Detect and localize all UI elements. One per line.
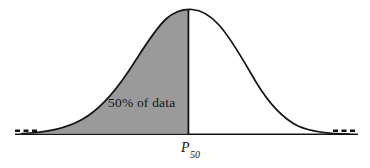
shaded-area-left-of-median (26, 9, 188, 133)
percentile-axis-label: P50 (181, 141, 200, 158)
percentile-symbol: P (181, 140, 190, 155)
normal-distribution-figure: 50% of data P50 (0, 0, 370, 168)
percentile-subscript: 50 (190, 149, 200, 160)
shaded-region-label: 50% of data (108, 96, 175, 110)
